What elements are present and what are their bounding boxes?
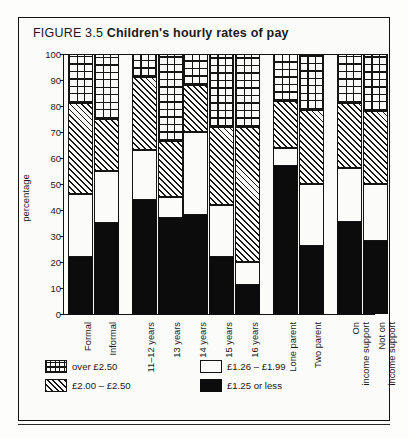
legend-label: £1.25 or less [227,380,282,391]
bar-segment [132,54,157,77]
bar-segment [235,262,260,285]
figure-number: FIGURE 3.5 [33,26,103,40]
bar-segment [299,54,324,110]
bar-segment [299,184,324,246]
bar-segment [132,77,157,150]
bar-segment [299,110,324,184]
legend-swatch [200,379,222,392]
bar-segment [235,127,260,262]
bar-segment [158,141,183,197]
bar-segment [183,215,208,314]
bar-segment [158,54,183,141]
legend-label: over £2.50 [72,361,117,372]
bar-15-years [209,54,234,314]
bar-segment [337,54,362,103]
bar-13-years [158,54,183,314]
bar-segment [273,101,298,148]
bar-segment [363,111,388,184]
bar-segment [209,205,234,257]
bar-two-parent [299,54,324,314]
bar-11–12-years [132,54,157,314]
bar-segment [94,223,119,314]
bar-not-on-income-support [363,54,388,314]
bar-segment [337,103,362,168]
y-axis-tick-label: 30 [50,231,61,242]
bar-segment [337,222,362,314]
bar-lone-parent [273,54,298,314]
legend-swatch [45,379,67,392]
legend-swatch [200,360,222,373]
bar-segment [158,197,183,218]
y-axis-tick-label: 40 [50,205,61,216]
y-axis-tick-label: 70 [50,127,61,138]
bar-segment [235,285,260,314]
plot-area: 0102030405060708090100 [63,54,375,315]
bar-segment [183,132,208,215]
chart-legend: over £2.50£1.26 – £1.99£2.00 – £2.50£1.2… [45,360,375,404]
bar-segment [183,85,208,132]
bar-segment [363,241,388,314]
x-axis-label: Formal [84,322,94,351]
y-axis-tick-label: 20 [50,257,61,268]
bar-segment [94,171,119,223]
bar-segment [273,54,298,101]
bar-segment [209,257,234,314]
y-axis-tick-label: 90 [50,75,61,86]
bar-segment [94,54,119,119]
bar-segment [183,54,208,85]
bar-informal [94,54,119,314]
bar-segment [299,246,324,314]
y-axis-tick-label: 50 [50,179,61,190]
x-axis-label: 15 years [225,322,235,358]
bar-segment [68,257,93,314]
x-axis-label: Not on income support [378,322,398,386]
bar-segment [209,54,234,127]
y-axis-tick-label: 100 [45,49,61,60]
y-axis-label: percentage [20,174,31,222]
figure-page: FIGURE 3.5 Children's hourly rates of pa… [0,0,408,438]
x-axis-label: 13 years [173,322,183,358]
y-axis-tick-label: 60 [50,153,61,164]
figure-title: FIGURE 3.5 Children's hourly rates of pa… [33,26,289,40]
bar-segment [363,184,388,241]
legend-label: £2.00 – £2.50 [72,380,131,391]
page-bottom-rule [18,424,390,425]
bar-segment [273,148,298,166]
bar-segment [68,54,93,103]
x-axis-label: 16 years [251,322,261,358]
legend-swatch [45,360,67,373]
bar-segment [132,200,157,314]
bar-segment [363,54,388,111]
bar-formal [68,54,93,314]
bar-segment [132,150,157,199]
y-axis-tick-label: 10 [50,283,61,294]
bar-segment [68,194,93,256]
figure-frame: FIGURE 3.5 Children's hourly rates of pa… [18,17,390,421]
bar-segment [235,54,260,127]
plot-wrapper: percentage 0102030405060708090100 Formal… [19,48,391,348]
bar-segment [158,218,183,314]
bar-on-income-support [337,54,362,314]
x-axis-label: 14 years [199,322,209,358]
y-axis-tick-label: 80 [50,101,61,112]
legend-label: £1.26 – £1.99 [227,361,286,372]
bar-segment [94,119,119,171]
bar-segment [273,166,298,314]
y-axis-tick-label: 0 [56,309,61,320]
x-axis-label: Informal [109,322,119,356]
bar-14-years [183,54,208,314]
bar-segment [68,103,93,194]
bar-segment [209,127,234,205]
figure-title-text: Children's hourly rates of pay [107,26,289,40]
bar-segment [337,168,362,221]
bar-16-years [235,54,260,314]
